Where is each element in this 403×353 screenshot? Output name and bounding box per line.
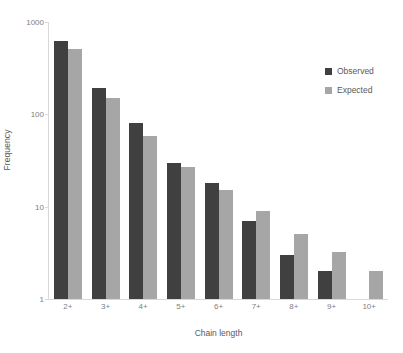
bar-observed-3plus[interactable] (92, 88, 106, 299)
y-axis-tick-mark (45, 299, 49, 300)
bar-group (313, 22, 351, 299)
plot-area: 1000100101 (49, 22, 388, 299)
x-axis-tick-label: 6+ (200, 302, 238, 318)
bar-expected-5plus[interactable] (181, 167, 195, 299)
x-axis-tick-label: 8+ (275, 302, 313, 318)
bar-group (350, 22, 388, 299)
x-axis-ticks: 2+3+4+5+6+7+8+9+10+ (49, 302, 388, 318)
legend-swatch-icon (325, 68, 332, 75)
x-axis-tick-label: 7+ (237, 302, 275, 318)
legend: ObservedExpected (325, 66, 403, 104)
x-axis-tick-label: 3+ (87, 302, 125, 318)
legend-item-observed[interactable]: Observed (325, 66, 403, 76)
bar-group (124, 22, 162, 299)
bar-expected-6plus[interactable] (219, 190, 233, 299)
y-axis-tick-label: 1 (4, 295, 44, 304)
legend-item-expected[interactable]: Expected (325, 85, 403, 95)
bar-observed-5plus[interactable] (167, 163, 181, 299)
bar-expected-8plus[interactable] (294, 234, 308, 299)
bar-group (200, 22, 238, 299)
bar-observed-4plus[interactable] (129, 123, 143, 299)
chart-container: Frequency 1000100101 2+3+4+5+6+7+8+9+10+… (0, 0, 403, 353)
y-axis-tick-label: 10 (4, 202, 44, 211)
x-axis-tick-label: 4+ (124, 302, 162, 318)
bar-expected-7plus[interactable] (256, 211, 270, 299)
bar-group (237, 22, 275, 299)
legend-swatch-icon (325, 87, 332, 94)
x-axis-tick-label: 2+ (49, 302, 87, 318)
bar-observed-9plus[interactable] (318, 271, 332, 299)
x-axis-tick-label: 10+ (350, 302, 388, 318)
x-axis-tick-label: 5+ (162, 302, 200, 318)
bar-expected-3plus[interactable] (106, 98, 120, 299)
x-axis-tick-label: 9+ (313, 302, 351, 318)
bar-groups (49, 22, 388, 299)
x-axis-title: Chain length (49, 328, 388, 338)
bar-observed-2plus[interactable] (54, 41, 68, 299)
bar-observed-8plus[interactable] (280, 255, 294, 299)
bar-expected-2plus[interactable] (68, 49, 82, 299)
bar-group (162, 22, 200, 299)
bar-observed-7plus[interactable] (242, 221, 256, 299)
y-axis-title-label: Frequency (2, 129, 12, 170)
y-axis-tick-label: 1000 (4, 18, 44, 27)
bar-expected-10plus[interactable] (369, 271, 383, 299)
legend-label: Expected (337, 85, 372, 95)
bar-observed-6plus[interactable] (205, 183, 219, 299)
legend-label: Observed (337, 66, 374, 76)
y-axis-tick-label: 100 (4, 110, 44, 119)
bar-expected-4plus[interactable] (143, 136, 157, 299)
bar-group (49, 22, 87, 299)
bar-expected-9plus[interactable] (332, 252, 346, 299)
x-axis-line (48, 299, 388, 300)
bar-group (275, 22, 313, 299)
bar-group (87, 22, 125, 299)
y-axis-title: Frequency (0, 0, 14, 300)
